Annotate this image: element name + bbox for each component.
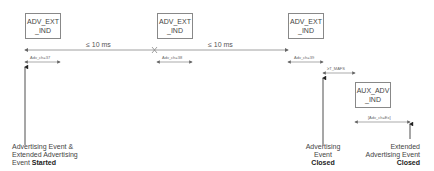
packet-label: ADV_EXT	[290, 17, 322, 26]
event-started-caption: Advertising Event & Extended Advertising…	[12, 143, 78, 167]
caption-emphasis: Closed	[311, 159, 334, 166]
caption-line: Advertising Event &	[12, 143, 78, 151]
caption-line: Extended Advertising	[12, 151, 78, 159]
packet-label: _IND	[159, 26, 191, 35]
channel-39-label: Adv_ch=39	[294, 55, 314, 60]
extended-event-closed-caption: Extended Advertising Event Closed	[358, 143, 420, 167]
caption-line: Advertising	[300, 143, 346, 151]
packet-label: _IND	[357, 95, 390, 104]
caption-emphasis: Closed	[397, 159, 420, 166]
packet-label: AUX_ADV	[357, 86, 390, 95]
caption-emphasis: Started	[32, 159, 56, 166]
aux-adv-ind-packet: AUX_ADV_IND	[355, 82, 391, 108]
packet-label: ADV_EXT	[27, 17, 59, 26]
channel-37-label: Adv_ch=37	[30, 55, 50, 60]
packet-label: _IND	[290, 26, 322, 35]
packet-label: _IND	[27, 26, 59, 35]
caption-line: Event	[12, 159, 32, 166]
mafs-label: ≥T_MAFS	[327, 66, 345, 71]
adv-ext-ind-packet-3: ADV_EXT_IND	[288, 13, 324, 39]
aux-channel-label: [Adv_ch=Ex]	[368, 115, 391, 120]
channel-38-label: Adv_ch=38	[162, 55, 182, 60]
adv-ext-ind-packet-1: ADV_EXT_IND	[25, 13, 61, 39]
interval-label-1: ≤ 10 ms	[86, 41, 111, 48]
interval-label-2: ≤ 10 ms	[208, 41, 233, 48]
packet-label: ADV_EXT	[159, 17, 191, 26]
caption-line: Advertising Event	[358, 151, 420, 159]
caption-line: Extended	[358, 143, 420, 151]
advertising-event-closed-caption: Advertising Event Closed	[300, 143, 346, 167]
caption-line: Event	[300, 151, 346, 159]
adv-ext-ind-packet-2: ADV_EXT_IND	[157, 13, 193, 39]
